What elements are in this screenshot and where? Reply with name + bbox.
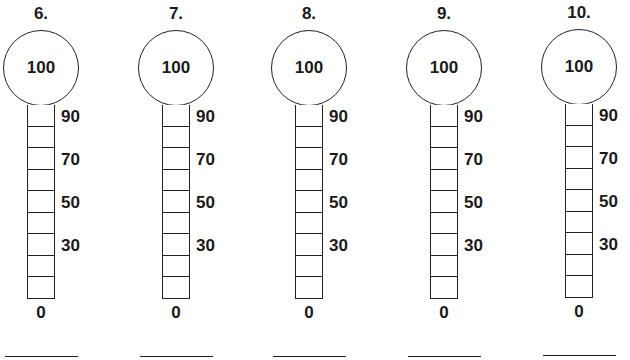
tube-cell — [296, 170, 322, 192]
scale-tick-label: 90 — [599, 106, 618, 126]
tube-cell — [296, 234, 322, 256]
tube-cell — [163, 277, 189, 299]
tube-cell — [566, 212, 592, 234]
tube-cell — [296, 148, 322, 170]
tube-cell — [431, 148, 457, 170]
scale-tick-label: 90 — [464, 107, 483, 127]
tube-cell — [28, 127, 54, 149]
tube-cell — [566, 190, 592, 212]
problem-number: 8. — [279, 4, 339, 24]
tube-cell — [296, 277, 322, 299]
scale-tick-label: 50 — [61, 193, 80, 213]
thermometer-worksheet: 6.1009070503007.1009070503008.1009070503… — [0, 0, 630, 360]
scale-tick-label: 50 — [599, 192, 618, 212]
thermometer-tube — [162, 105, 190, 299]
problem-number: 6. — [11, 4, 71, 24]
thermometer-tube — [430, 105, 458, 299]
tube-cell — [163, 127, 189, 149]
scale-tick-label: 90 — [329, 107, 348, 127]
answer-blank[interactable] — [408, 356, 481, 357]
scale-tick-label: 70 — [599, 149, 618, 169]
tube-cell — [431, 213, 457, 235]
scale-tick-label: 50 — [329, 193, 348, 213]
tube-cell — [163, 191, 189, 213]
tube-cell — [431, 105, 457, 127]
problem-number: 7. — [146, 4, 206, 24]
scale-zero-label: 0 — [21, 303, 61, 323]
thermometer-tube — [295, 105, 323, 299]
thermometer-bulb: 100 — [406, 30, 482, 106]
tube-cell — [28, 277, 54, 299]
tube-cell — [163, 170, 189, 192]
tube-cell — [431, 277, 457, 299]
tube-cell — [163, 256, 189, 278]
scale-zero-label: 0 — [289, 303, 329, 323]
tube-cell — [566, 233, 592, 255]
scale-zero-label: 0 — [424, 303, 464, 323]
answer-blank[interactable] — [273, 356, 346, 357]
tube-cell — [566, 169, 592, 191]
tube-cell — [296, 191, 322, 213]
scale-tick-label: 70 — [196, 150, 215, 170]
tube-cell — [28, 170, 54, 192]
scale-zero-label: 0 — [156, 303, 196, 323]
tube-cell — [296, 105, 322, 127]
thermometer-bulb: 100 — [541, 29, 617, 105]
scale-tick-label: 30 — [61, 236, 80, 256]
scale-tick-label: 90 — [61, 107, 80, 127]
scale-tick-label: 90 — [196, 107, 215, 127]
scale-tick-label: 30 — [599, 235, 618, 255]
tube-cell — [566, 104, 592, 126]
thermometer-bulb: 100 — [138, 30, 214, 106]
tube-cell — [431, 127, 457, 149]
bulb-value-label: 100 — [407, 58, 481, 78]
scale-tick-label: 70 — [464, 150, 483, 170]
tube-cell — [163, 148, 189, 170]
tube-cell — [431, 256, 457, 278]
answer-blank[interactable] — [543, 355, 616, 356]
bulb-value-label: 100 — [542, 57, 616, 77]
scale-tick-label: 50 — [196, 193, 215, 213]
tube-cell — [296, 127, 322, 149]
tube-cell — [28, 213, 54, 235]
tube-cell — [28, 256, 54, 278]
thermometer-bulb: 100 — [271, 30, 347, 106]
tube-cell — [566, 126, 592, 148]
tube-cell — [431, 234, 457, 256]
tube-cell — [566, 276, 592, 298]
thermometer-bulb: 100 — [3, 30, 79, 106]
tube-cell — [28, 148, 54, 170]
problem-number: 10. — [549, 3, 609, 23]
scale-tick-label: 70 — [61, 150, 80, 170]
tube-cell — [163, 105, 189, 127]
thermometer-tube — [27, 105, 55, 299]
thermometer-tube — [565, 104, 593, 298]
answer-blank[interactable] — [5, 356, 78, 357]
tube-cell — [28, 234, 54, 256]
scale-zero-label: 0 — [559, 302, 599, 322]
tube-cell — [566, 255, 592, 277]
tube-cell — [28, 105, 54, 127]
problem-number: 9. — [414, 4, 474, 24]
scale-tick-label: 70 — [329, 150, 348, 170]
bulb-value-label: 100 — [272, 58, 346, 78]
tube-cell — [28, 191, 54, 213]
answer-blank[interactable] — [140, 356, 213, 357]
tube-cell — [163, 213, 189, 235]
tube-cell — [163, 234, 189, 256]
tube-cell — [566, 147, 592, 169]
tube-cell — [431, 191, 457, 213]
bulb-value-label: 100 — [139, 58, 213, 78]
tube-cell — [296, 256, 322, 278]
scale-tick-label: 30 — [464, 236, 483, 256]
tube-cell — [431, 170, 457, 192]
scale-tick-label: 50 — [464, 193, 483, 213]
tube-cell — [296, 213, 322, 235]
scale-tick-label: 30 — [196, 236, 215, 256]
scale-tick-label: 30 — [329, 236, 348, 256]
bulb-value-label: 100 — [4, 58, 78, 78]
